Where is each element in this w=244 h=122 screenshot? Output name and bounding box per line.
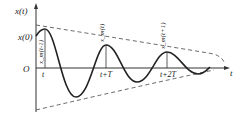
peak-label-1: x_m(t-1): [37, 39, 45, 65]
tick-t-plus-T: t+T: [100, 70, 113, 79]
upper-envelope: [36, 25, 224, 62]
origin-label: O: [23, 64, 30, 74]
peak-label-2: x_m(t): [98, 23, 106, 43]
y-axis-arrow-icon: [34, 3, 38, 9]
tick-t-plus-2T: t+2T: [160, 70, 177, 79]
y-axis-label: x(t): [14, 6, 28, 16]
peak-label-3: x_m(t+1): [159, 22, 167, 50]
tick-t: t: [42, 70, 45, 79]
initial-value-label: x(0): [17, 32, 33, 42]
oscillation-curve: [36, 29, 210, 97]
x-axis-label: t: [230, 68, 233, 78]
damped-oscillation-diagram: x(t) x(0) O t t t+T t+2T x_m(t-1) x_m(t)…: [0, 0, 244, 122]
